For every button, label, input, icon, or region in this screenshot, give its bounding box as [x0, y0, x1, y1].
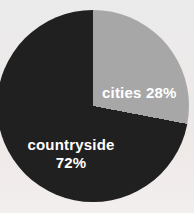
pie-slice-label-countryside-value: 72%: [8, 154, 134, 172]
pie-slice-label-cities: cities 28%: [102, 85, 177, 100]
pie-slice-label-countryside: countryside 72%: [8, 136, 134, 172]
pie-chart-figure: cities 28% countryside 72%: [0, 0, 194, 213]
pie-slice-label-countryside-name: countryside: [8, 136, 134, 154]
pie-chart: [0, 10, 189, 202]
